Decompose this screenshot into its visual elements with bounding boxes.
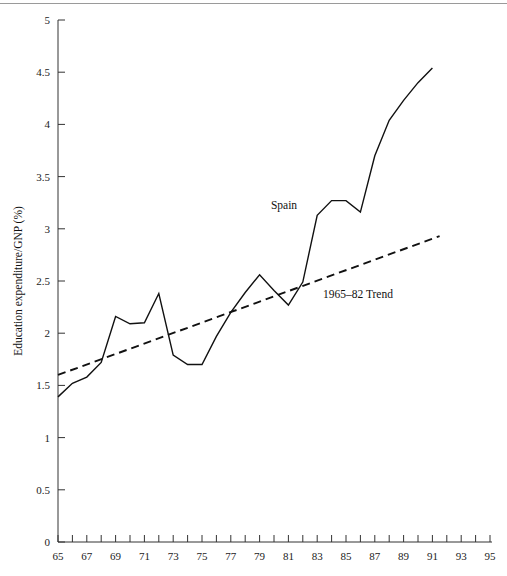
- x-tick-label: 69: [110, 550, 122, 562]
- y-tick-label: 0.5: [36, 484, 50, 496]
- figure-container: 00.511.522.533.544.55 656769717375777981…: [0, 0, 507, 576]
- y-tick-label: 2: [45, 327, 51, 339]
- spain-series-label: Spain: [271, 199, 297, 212]
- x-tick-label: 65: [53, 550, 65, 562]
- x-tick-label: 95: [485, 550, 497, 562]
- y-tick-label: 1: [45, 432, 51, 444]
- x-tick-label: 91: [427, 550, 438, 562]
- chart-canvas: 00.511.522.533.544.55 656769717375777981…: [0, 0, 507, 576]
- x-tick-label: 77: [225, 550, 237, 562]
- x-tick-label: 79: [254, 550, 266, 562]
- x-tick-label: 87: [369, 550, 381, 562]
- y-axis-ticks: [58, 20, 65, 542]
- x-axis-tick-labels: 65676971737577798183858789919395: [53, 550, 497, 562]
- y-axis-tick-labels: 00.511.522.533.544.55: [36, 14, 50, 548]
- y-tick-label: 2.5: [36, 275, 50, 287]
- x-tick-label: 89: [398, 550, 410, 562]
- y-tick-label: 1.5: [36, 379, 50, 391]
- y-tick-label: 5: [45, 14, 51, 26]
- x-tick-label: 75: [197, 550, 209, 562]
- trend-line-1965-82: [58, 236, 440, 375]
- y-tick-label: 4.5: [36, 66, 50, 78]
- x-tick-label: 67: [81, 550, 93, 562]
- spain-data-line: [58, 68, 432, 397]
- x-tick-label: 73: [168, 550, 180, 562]
- y-tick-label: 0: [45, 536, 51, 548]
- y-tick-label: 4: [45, 118, 51, 130]
- x-axis-ticks: [58, 535, 490, 542]
- y-axis-title: Education expenditure/GNP (%): [12, 206, 25, 356]
- x-tick-label: 81: [283, 550, 294, 562]
- y-tick-label: 3.5: [36, 171, 50, 183]
- trend-series-label: 1965–82 Trend: [323, 288, 393, 300]
- x-tick-label: 71: [139, 550, 150, 562]
- y-tick-label: 3: [45, 223, 51, 235]
- x-tick-label: 93: [456, 550, 468, 562]
- x-tick-label: 85: [341, 550, 353, 562]
- x-tick-label: 83: [312, 550, 324, 562]
